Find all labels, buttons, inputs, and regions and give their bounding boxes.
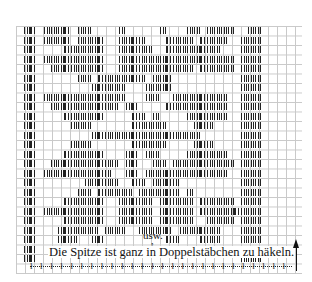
- double-crochet-stitch: [186, 217, 193, 224]
- double-crochet-stitch: [179, 170, 186, 177]
- double-crochet-stitch: [172, 208, 179, 215]
- double-crochet-stitch: [247, 189, 254, 196]
- double-crochet-stitch: [43, 27, 50, 34]
- double-crochet-stitch: [172, 198, 179, 205]
- double-crochet-stitch: [193, 132, 200, 139]
- chart-row: [16, 64, 302, 74]
- double-crochet-stitch: [220, 217, 227, 224]
- double-crochet-stitch: [193, 151, 200, 158]
- border-stitch-icon: ł: [161, 261, 164, 271]
- double-crochet-stitch: [254, 75, 261, 82]
- chart-row: [16, 131, 302, 141]
- double-crochet-stitch: [57, 37, 64, 44]
- double-crochet-stitch: [64, 151, 71, 158]
- double-crochet-stitch: [23, 132, 30, 139]
- double-crochet-stitch: [240, 56, 247, 63]
- double-crochet-stitch: [125, 217, 132, 224]
- double-crochet-stitch: [30, 65, 37, 72]
- double-crochet-stitch: [254, 227, 261, 234]
- chart-row: [16, 26, 302, 36]
- double-crochet-stitch: [166, 46, 173, 53]
- double-crochet-stitch: [104, 160, 111, 167]
- double-crochet-stitch: [179, 65, 186, 72]
- double-crochet-stitch: [247, 75, 254, 82]
- double-crochet-stitch: [23, 198, 30, 205]
- double-crochet-stitch: [152, 160, 159, 167]
- double-crochet-stitch: [91, 37, 98, 44]
- double-crochet-stitch: [220, 198, 227, 205]
- double-crochet-stitch: [57, 208, 64, 215]
- double-crochet-stitch: [166, 84, 173, 91]
- double-crochet-stitch: [179, 56, 186, 63]
- double-crochet-stitch: [132, 132, 139, 139]
- double-crochet-stitch: [186, 94, 193, 101]
- double-crochet-stitch: [254, 113, 261, 120]
- double-crochet-stitch: [23, 208, 30, 215]
- double-crochet-stitch: [70, 103, 77, 110]
- double-crochet-stitch: [200, 208, 207, 215]
- border-stitch-icon: ł: [121, 261, 124, 271]
- double-crochet-stitch: [254, 217, 261, 224]
- double-crochet-stitch: [111, 189, 118, 196]
- double-crochet-stitch: [77, 198, 84, 205]
- double-crochet-stitch: [30, 46, 37, 53]
- double-crochet-stitch: [77, 27, 84, 34]
- double-crochet-stitch: [30, 75, 37, 82]
- double-crochet-stitch: [23, 84, 30, 91]
- double-crochet-stitch: [206, 122, 213, 129]
- double-crochet-stitch: [98, 236, 105, 243]
- double-crochet-stitch: [138, 122, 145, 129]
- double-crochet-stitch: [118, 75, 125, 82]
- double-crochet-stitch: [98, 151, 105, 158]
- double-crochet-stitch: [125, 46, 132, 53]
- border-stitch-icon: ł: [70, 261, 73, 271]
- double-crochet-stitch: [254, 103, 261, 110]
- double-crochet-stitch: [23, 122, 30, 129]
- double-crochet-stitch: [152, 113, 159, 120]
- double-crochet-stitch: [240, 151, 247, 158]
- double-crochet-stitch: [186, 103, 193, 110]
- double-crochet-stitch: [111, 179, 118, 186]
- double-crochet-stitch: [220, 103, 227, 110]
- double-crochet-stitch: [132, 75, 139, 82]
- double-crochet-stitch: [30, 84, 37, 91]
- double-crochet-stitch: [77, 75, 84, 82]
- double-crochet-stitch: [70, 122, 77, 129]
- double-crochet-stitch: [159, 84, 166, 91]
- double-crochet-stitch: [84, 65, 91, 72]
- double-crochet-stitch: [125, 103, 132, 110]
- double-crochet-stitch: [179, 208, 186, 215]
- double-crochet-stitch: [172, 179, 179, 186]
- double-crochet-stitch: [50, 56, 57, 63]
- double-crochet-stitch: [186, 151, 193, 158]
- double-crochet-stitch: [132, 141, 139, 148]
- double-crochet-stitch: [206, 65, 213, 72]
- double-crochet-stitch: [200, 236, 207, 243]
- double-crochet-stitch: [50, 65, 57, 72]
- double-crochet-stitch: [145, 170, 152, 177]
- double-crochet-stitch: [132, 198, 139, 205]
- double-crochet-stitch: [91, 94, 98, 101]
- double-crochet-stitch: [227, 65, 234, 72]
- chart-row: [16, 93, 302, 103]
- double-crochet-stitch: [23, 236, 30, 243]
- double-crochet-stitch: [247, 227, 254, 234]
- double-crochet-stitch: [227, 198, 234, 205]
- double-crochet-stitch: [145, 46, 152, 53]
- double-crochet-stitch: [111, 227, 118, 234]
- double-crochet-stitch: [77, 189, 84, 196]
- double-crochet-stitch: [118, 65, 125, 72]
- double-crochet-stitch: [30, 208, 37, 215]
- double-crochet-stitch: [179, 94, 186, 101]
- double-crochet-stitch: [172, 65, 179, 72]
- double-crochet-stitch: [227, 208, 234, 215]
- double-crochet-stitch: [179, 217, 186, 224]
- double-crochet-stitch: [159, 122, 166, 129]
- border-stitch-icon: ł: [40, 261, 43, 271]
- double-crochet-stitch: [104, 75, 111, 82]
- double-crochet-stitch: [254, 132, 261, 139]
- double-crochet-stitch: [179, 46, 186, 53]
- double-crochet-stitch: [152, 75, 159, 82]
- double-crochet-stitch: [23, 65, 30, 72]
- double-crochet-stitch: [247, 122, 254, 129]
